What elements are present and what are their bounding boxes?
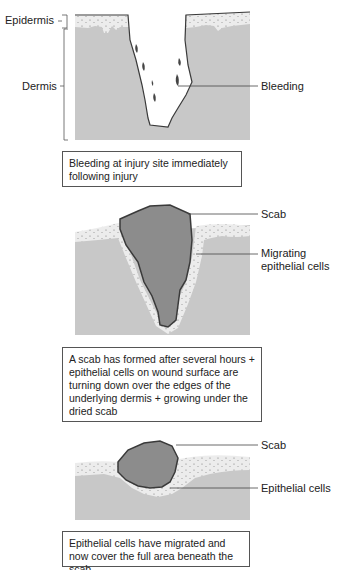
caption-panel-2: A scab has formed after several hours + … xyxy=(62,347,262,422)
panel-2-scab-forming xyxy=(75,205,258,335)
panel-3-epithelial-covered xyxy=(75,441,258,520)
label-scab-panel-2: Scab xyxy=(261,208,286,221)
label-dermis: Dermis xyxy=(22,80,57,93)
label-scab-panel-3: Scab xyxy=(261,439,286,452)
label-epidermis: Epidermis xyxy=(5,14,54,27)
label-migrating-epithelial-cells: Migrating epithelial cells xyxy=(261,247,341,273)
label-bleeding: Bleeding xyxy=(261,80,304,93)
caption-panel-3: Epithelial cells have migrated and now c… xyxy=(62,531,250,567)
caption-panel-1: Bleeding at injury site immediately foll… xyxy=(62,151,242,187)
panel-1-injury xyxy=(58,12,258,140)
label-epithelial-cells: Epithelial cells xyxy=(261,482,331,495)
